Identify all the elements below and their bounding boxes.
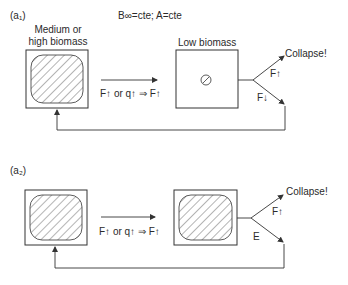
- feedback-loop-a1: [57, 106, 285, 130]
- transition-label-a2: F↑ or q↑ ⇒ F↑: [99, 226, 160, 237]
- collapse-label-a2: Collapse!: [286, 186, 328, 197]
- high-biomass-fill: [31, 55, 83, 103]
- panel-label-a2: (a₂): [10, 165, 26, 176]
- fork-down-label-a2: E: [253, 231, 260, 242]
- high-biomass-title-line2: high biomass: [22, 36, 94, 47]
- fork-up-label-a2: F↑: [272, 206, 283, 217]
- fork-up-label-a1: F↑: [270, 68, 281, 79]
- high-biomass-fill-a2: [30, 195, 82, 240]
- low-biomass-hatch: [203, 77, 209, 83]
- transition-label-a1: F↑ or q↑ ⇒ F↑: [100, 88, 161, 99]
- low-biomass-title: Low biomass: [178, 37, 236, 48]
- feedback-loop-a2: [55, 244, 284, 268]
- fork-down-label-a1: F↓: [257, 92, 268, 103]
- maintained-biomass-fill-a2: [179, 195, 232, 240]
- collapse-label-a1: Collapse!: [285, 48, 327, 59]
- high-biomass-title-line1: Medium or: [22, 24, 94, 35]
- panel-label-a1: (a₁): [10, 10, 26, 21]
- condition-label: B∞=cte; A=cte: [118, 10, 182, 21]
